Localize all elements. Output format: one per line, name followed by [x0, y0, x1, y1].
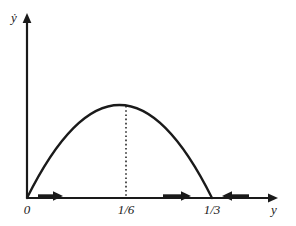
x-tick-label-one-third: 1/3: [204, 203, 221, 216]
flow-arrow-right-2: [163, 191, 191, 201]
parabola-curve: [27, 105, 212, 198]
x-tick-label-origin: 0: [24, 203, 31, 216]
y-axis-label: ẏ: [11, 11, 17, 24]
phase-line-parabola-figure: ẏ y 0 1/6 1/3: [0, 0, 296, 226]
x-axis-label: y: [271, 203, 277, 216]
plot-canvas: [0, 0, 296, 226]
y-axis-arrowhead: [23, 13, 32, 23]
flow-arrow-right-1: [38, 191, 63, 201]
x-tick-label-one-sixth: 1/6: [118, 203, 135, 216]
flow-arrow-left-1: [222, 191, 249, 201]
